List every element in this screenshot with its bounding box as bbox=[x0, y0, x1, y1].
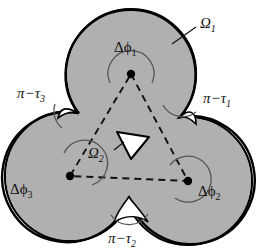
pi-minus-tau-1-label: π−τ1 bbox=[203, 90, 231, 109]
pi-minus-tau-3-subscript: 3 bbox=[39, 93, 45, 104]
omega-2-subscript: 2 bbox=[99, 153, 104, 164]
delta-phi-1-symbol: Δϕ bbox=[114, 39, 132, 55]
vertex-dot-3 bbox=[66, 172, 74, 180]
delta-phi-2-subscript: 2 bbox=[216, 191, 221, 202]
pi-minus-tau-3-symbol: π−τ bbox=[17, 85, 41, 101]
omega-2-symbol: Ω bbox=[88, 145, 99, 161]
pi-minus-tau-1-subscript: 1 bbox=[226, 98, 231, 109]
three-disc-figure: Ω1 Ω2 Δϕ1 Δϕ2 Δϕ3 π−τ1 π−τ2 π−τ3 bbox=[0, 0, 257, 252]
pi-minus-tau-2-symbol: π−τ bbox=[108, 230, 132, 246]
pi-minus-tau-2-subscript: 2 bbox=[131, 238, 136, 249]
omega-1-label: Ω1 bbox=[200, 15, 216, 34]
delta-phi-3-subscript: 3 bbox=[28, 189, 33, 200]
pi-minus-tau-3-label: π−τ3 bbox=[17, 85, 45, 104]
pi-minus-tau-1-symbol: π−τ bbox=[203, 90, 227, 106]
delta-phi-1-subscript: 1 bbox=[132, 47, 137, 58]
pi-minus-tau-2-label: π−τ2 bbox=[108, 230, 136, 249]
omega-1-subscript: 1 bbox=[211, 23, 216, 34]
vertex-dot-2 bbox=[184, 177, 192, 185]
vertex-dot-1 bbox=[127, 70, 135, 78]
figure-container: Ω1 Ω2 Δϕ1 Δϕ2 Δϕ3 π−τ1 π−τ2 π−τ3 bbox=[0, 0, 257, 252]
delta-phi-3-symbol: Δϕ bbox=[10, 181, 28, 197]
delta-phi-2-symbol: Δϕ bbox=[198, 183, 216, 199]
omega-1-symbol: Ω bbox=[200, 15, 211, 31]
